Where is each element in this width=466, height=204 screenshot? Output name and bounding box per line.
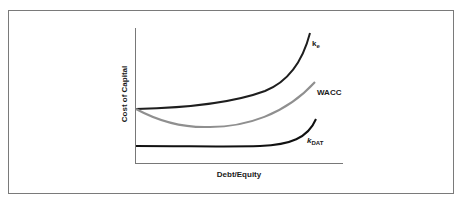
cost-of-capital-chart: Cost of Capital Debt/Equity ke WACC kDAT <box>0 0 466 204</box>
wacc-label: WACC <box>317 88 342 97</box>
y-axis-label: Cost of Capital <box>120 66 129 122</box>
ke-curve <box>136 33 310 109</box>
kdat-curve <box>136 119 316 146</box>
ke-label: ke <box>312 39 320 49</box>
kdat-label: kDAT <box>307 136 324 146</box>
x-axis-label: Debt/Equity <box>217 170 262 179</box>
wacc-curve <box>136 82 315 127</box>
